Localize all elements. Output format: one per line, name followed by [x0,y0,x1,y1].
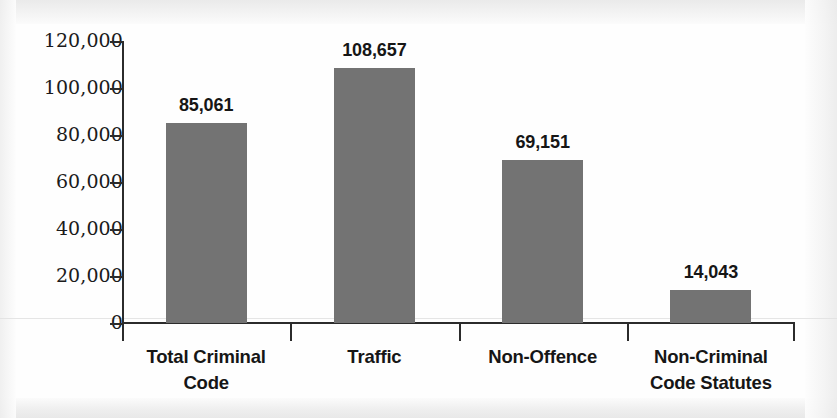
x-axis-tick-mark [627,324,629,341]
bar[interactable] [334,68,415,323]
y-axis-tick-mark [110,182,123,184]
x-axis-category-label: Non-Offence [459,344,627,370]
x-axis-category-label: Total CriminalCode [122,344,290,396]
bar[interactable] [166,123,247,323]
x-axis-tick-mark [122,324,124,341]
x-axis-category-label: Non-CriminalCode Statutes [627,344,795,396]
bar-value-label: 69,151 [463,132,623,153]
y-axis-tick-mark [110,229,123,231]
y-axis-tick-label: 0 [31,311,123,333]
bar-value-label: 108,657 [294,40,454,61]
x-axis-tick-mark [459,324,461,341]
bar-value-label: 85,061 [126,95,286,116]
x-axis-tick-mark [290,324,292,341]
chart-screenshot: 120,000100,00080,00060,00040,00020,0000 … [0,0,837,418]
category-label-line1: Non-Offence [488,346,597,367]
bar[interactable] [670,290,751,323]
x-axis-category-label: Traffic [290,344,458,370]
y-axis-tick-label: 40,000 [31,217,123,239]
category-label-line2: Code [122,370,290,396]
y-axis-tick-mark [110,88,123,90]
y-axis-tick-label: 80,000 [31,123,123,145]
y-axis-tick-label: 100,000 [31,76,123,98]
bar-chart-plot: 120,000100,00080,00060,00040,00020,0000 … [0,0,837,418]
y-axis-tick-label: 60,000 [31,170,123,192]
bar[interactable] [502,160,583,323]
x-axis-tick-mark [793,324,795,341]
y-axis-tick-mark [110,135,123,137]
category-label-line1: Total Criminal [147,346,266,367]
y-axis-tick-label: 120,000 [31,29,123,51]
category-label-line1: Non-Criminal [654,346,768,367]
y-axis-tick-label: 20,000 [31,264,123,286]
y-axis-tick-mark [110,41,123,43]
category-label-line1: Traffic [347,346,401,367]
y-axis-tick-mark [110,276,123,278]
bar-value-label: 14,043 [631,262,791,283]
category-label-line2: Code Statutes [627,370,795,396]
